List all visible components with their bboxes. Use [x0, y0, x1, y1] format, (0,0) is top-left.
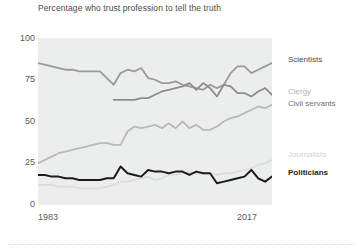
series-label-scientists: Scientists [288, 55, 322, 65]
chart-container: Percentage who trust profession to tell … [0, 0, 362, 251]
series-line-clergy [114, 83, 272, 100]
footer-divider [8, 244, 354, 246]
y-axis-label-0: 0 [7, 199, 35, 209]
y-axis-label-50: 50 [7, 116, 35, 126]
x-axis-label-start: 1983 [38, 212, 58, 222]
series-label-journalists: Journalists [288, 150, 326, 160]
y-axis-label-100: 100 [7, 33, 35, 43]
y-axis-label-75: 75 [7, 74, 35, 84]
series-label-clergy: Clergy [288, 87, 311, 97]
series-label-civil-servants: Civil servants [288, 99, 336, 109]
series-line-scientists [38, 63, 272, 90]
chart-plot-area [38, 38, 272, 205]
x-axis-label-end: 2017 [237, 212, 257, 222]
series-label-politicians: Politicians [288, 168, 328, 178]
series-line-journalists [38, 160, 272, 188]
series-line-civil-servants [38, 105, 272, 163]
y-axis-label-25: 25 [7, 157, 35, 167]
chart-title: Percentage who trust profession to tell … [38, 3, 221, 13]
